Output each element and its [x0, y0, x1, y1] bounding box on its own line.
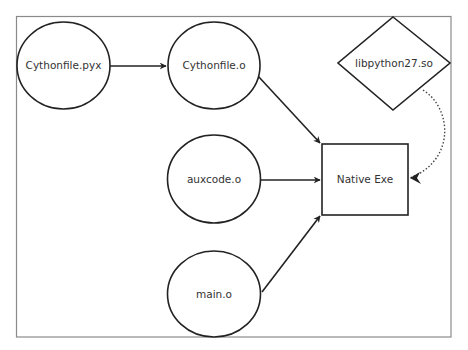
- node-label: Cythonfile.pyx: [26, 59, 102, 71]
- node-label: Cythonfile.o: [182, 59, 245, 71]
- edge-cythonfile-o-to-native-exe: [258, 76, 320, 143]
- node-label: libpython27.so: [355, 57, 433, 69]
- build-diagram: Cythonfile.pyx Cythonfile.o auxcode.o ma…: [0, 0, 468, 350]
- edge-libpython-to-native-exe: [410, 90, 445, 178]
- node-auxcode-o[interactable]: auxcode.o: [168, 135, 261, 223]
- node-label: Native Exe: [337, 173, 393, 185]
- node-native-exe[interactable]: Native Exe: [322, 144, 408, 215]
- node-cythonfile-o[interactable]: Cythonfile.o: [168, 22, 260, 109]
- node-main-o[interactable]: main.o: [168, 251, 261, 337]
- node-label: main.o: [196, 288, 232, 300]
- node-libpython27-so[interactable]: libpython27.so: [338, 17, 450, 110]
- edge-main-o-to-native-exe: [262, 216, 320, 292]
- node-cythonfile-pyx[interactable]: Cythonfile.pyx: [17, 22, 110, 109]
- node-label: auxcode.o: [187, 173, 241, 185]
- dotted-arrowhead: [410, 172, 421, 184]
